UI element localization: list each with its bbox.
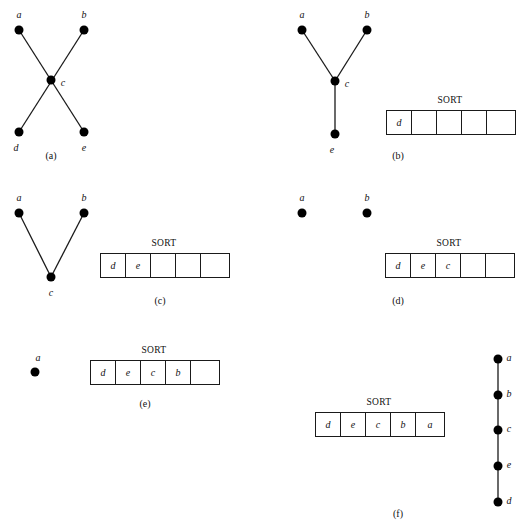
graph-node-label: a bbox=[17, 192, 22, 203]
sort-table-title: SORT bbox=[437, 238, 462, 248]
graph-node-label: a bbox=[507, 352, 512, 363]
graph-node-a bbox=[298, 26, 307, 35]
graph-node-label: b bbox=[365, 9, 370, 20]
graph-node-e bbox=[494, 462, 503, 471]
sort-table-d: SORTdec bbox=[385, 253, 515, 278]
sort-cell[interactable] bbox=[201, 254, 229, 277]
panel-caption-f: (f) bbox=[393, 508, 403, 519]
sort-cell[interactable]: b bbox=[391, 413, 416, 436]
graph-node-b bbox=[363, 209, 372, 218]
sort-cell[interactable] bbox=[191, 361, 219, 384]
sort-table-cells: dec bbox=[385, 253, 515, 278]
graph-node-label: d bbox=[507, 495, 512, 506]
graph-edge bbox=[51, 213, 84, 277]
graph-node-b bbox=[494, 391, 503, 400]
sort-cell[interactable] bbox=[487, 111, 515, 134]
graph-node-d bbox=[15, 128, 24, 137]
graph-edge bbox=[19, 213, 51, 277]
sort-table-c: SORTde bbox=[100, 253, 230, 278]
graph-node-label: c bbox=[61, 77, 65, 88]
sort-table-cells: decba bbox=[315, 412, 445, 437]
panel-caption-c: (c) bbox=[154, 295, 165, 306]
graph-node-label: b bbox=[82, 9, 87, 20]
graph-node-label: b bbox=[82, 192, 87, 203]
graph-node-a bbox=[298, 209, 307, 218]
sort-cell[interactable]: d bbox=[387, 111, 412, 134]
sort-cell[interactable] bbox=[461, 254, 486, 277]
sort-cell[interactable]: e bbox=[411, 254, 436, 277]
graph-node-label: e bbox=[82, 142, 86, 153]
sort-cell[interactable] bbox=[412, 111, 437, 134]
graph-node-label: c bbox=[345, 78, 349, 89]
sort-cell[interactable] bbox=[462, 111, 487, 134]
graph-edge bbox=[302, 30, 335, 81]
sort-cell[interactable]: d bbox=[101, 254, 126, 277]
sort-table-b: SORTd bbox=[386, 110, 516, 135]
panel-caption-b: (b) bbox=[392, 150, 404, 161]
graph-node-label: a bbox=[300, 192, 305, 203]
panel-caption-d: (d) bbox=[392, 295, 404, 306]
sort-cell[interactable]: d bbox=[316, 413, 341, 436]
sort-table-cells: d bbox=[386, 110, 516, 135]
sort-cell[interactable]: e bbox=[341, 413, 366, 436]
sort-cell[interactable] bbox=[437, 111, 462, 134]
graph-node-b bbox=[80, 26, 89, 35]
graph-node-label: e bbox=[507, 459, 511, 470]
sort-table-title: SORT bbox=[438, 95, 463, 105]
graph-node-c bbox=[331, 77, 340, 86]
graph-node-b bbox=[363, 26, 372, 35]
graph-node-b bbox=[80, 209, 89, 218]
graph-node-c bbox=[47, 76, 56, 85]
sort-table-cells: de bbox=[100, 253, 230, 278]
graph-node-label: c bbox=[507, 423, 511, 434]
graph-edge bbox=[335, 30, 367, 81]
graph-node-label: c bbox=[49, 287, 53, 298]
figure-root: abcdeabceabcabaabced SORTdSORTdeSORTdecS… bbox=[0, 0, 517, 526]
sort-table-cells: decb bbox=[90, 360, 220, 385]
sort-cell[interactable]: b bbox=[166, 361, 191, 384]
graph-node-e bbox=[331, 130, 340, 139]
graph-node-c bbox=[47, 273, 56, 282]
sort-table-e: SORTdecb bbox=[90, 360, 220, 385]
graph-node-a bbox=[15, 26, 24, 35]
sort-cell[interactable]: e bbox=[126, 254, 151, 277]
graph-node-a bbox=[494, 355, 503, 364]
sort-cell[interactable]: d bbox=[91, 361, 116, 384]
panel-caption-e: (e) bbox=[139, 398, 150, 409]
graph-node-label: e bbox=[330, 144, 334, 155]
graph-node-a bbox=[15, 209, 24, 218]
graph-node-c bbox=[494, 426, 503, 435]
graph-node-label: a bbox=[36, 352, 41, 363]
sort-cell[interactable] bbox=[176, 254, 201, 277]
graph-node-label: a bbox=[300, 9, 305, 20]
graph-node-label: b bbox=[365, 192, 370, 203]
graph-node-d bbox=[494, 498, 503, 507]
sort-cell[interactable]: c bbox=[436, 254, 461, 277]
sort-table-title: SORT bbox=[142, 345, 167, 355]
sort-table-f: SORTdecba bbox=[315, 412, 445, 437]
graph-node-label: d bbox=[14, 142, 19, 153]
sort-cell[interactable] bbox=[486, 254, 514, 277]
sort-cell[interactable]: c bbox=[141, 361, 166, 384]
sort-cell[interactable]: a bbox=[416, 413, 444, 436]
sort-cell[interactable] bbox=[151, 254, 176, 277]
graph-node-e bbox=[80, 128, 89, 137]
sort-cell[interactable]: e bbox=[116, 361, 141, 384]
sort-cell[interactable]: d bbox=[386, 254, 411, 277]
sort-table-title: SORT bbox=[152, 238, 177, 248]
graph-node-a bbox=[31, 368, 40, 377]
panel-caption-a: (a) bbox=[45, 150, 56, 161]
graph-node-label: b bbox=[507, 388, 512, 399]
sort-table-title: SORT bbox=[367, 397, 392, 407]
graph-node-label: a bbox=[17, 9, 22, 20]
sort-cell[interactable]: c bbox=[366, 413, 391, 436]
